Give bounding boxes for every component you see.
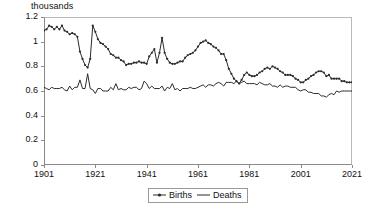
series-data-point xyxy=(117,57,119,59)
series-data-point xyxy=(140,62,142,64)
series-data-point xyxy=(251,75,253,77)
y-axis-tick-label: 1 xyxy=(0,36,38,46)
series-data-point xyxy=(58,28,60,30)
series-data-point xyxy=(189,53,191,55)
x-axis-tick-label: 1901 xyxy=(24,169,64,179)
series-data-point xyxy=(161,37,163,39)
series-data-point xyxy=(328,74,330,76)
series-data-point xyxy=(207,42,209,44)
series-data-point xyxy=(174,63,176,65)
series-data-point xyxy=(99,42,101,44)
series-data-point xyxy=(312,74,314,76)
x-axis-tick-label: 2021 xyxy=(332,169,371,179)
series-data-point xyxy=(87,66,89,68)
x-axis-tick-label: 2001 xyxy=(281,169,321,179)
y-axis-tick-label: 0.4 xyxy=(0,110,38,120)
series-data-point xyxy=(351,81,352,83)
series-data-point xyxy=(176,62,178,64)
series-data-point xyxy=(171,63,173,65)
series-data-point xyxy=(89,58,91,60)
series-data-point xyxy=(253,75,255,77)
series-data-point xyxy=(51,26,53,28)
series-data-point xyxy=(323,71,325,73)
series-data-point xyxy=(71,32,73,34)
series-data-point xyxy=(289,74,291,76)
x-axis-tick-mark xyxy=(352,165,353,168)
series-data-point xyxy=(197,46,199,48)
series-data-point xyxy=(56,26,58,28)
series-data-point xyxy=(192,52,194,54)
series-data-point xyxy=(69,33,71,35)
series-data-point xyxy=(228,68,230,70)
series-data-point xyxy=(325,75,327,77)
series-data-point xyxy=(264,68,266,70)
series-data-point xyxy=(279,70,281,72)
series-data-point xyxy=(84,64,86,66)
series-data-point xyxy=(79,50,81,52)
series-data-point xyxy=(164,52,166,54)
series-data-point xyxy=(284,74,286,76)
series-data-point xyxy=(112,54,114,56)
series-data-point xyxy=(187,54,189,56)
legend-label-deaths: Deaths xyxy=(213,190,242,200)
series-data-point xyxy=(341,80,343,82)
series-data-point xyxy=(61,25,63,27)
series-data-point xyxy=(133,62,135,64)
series-data-point xyxy=(310,75,312,77)
series-data-point xyxy=(220,53,222,55)
series-data-point xyxy=(215,47,217,49)
series-data-point xyxy=(148,55,150,57)
series-data-point xyxy=(287,74,289,76)
series-data-point xyxy=(315,71,317,73)
x-axis-tick-mark xyxy=(95,165,96,168)
series-data-point xyxy=(338,78,340,80)
series-data-point xyxy=(243,74,245,76)
x-axis-tick-mark xyxy=(249,165,250,168)
series-data-point xyxy=(269,68,271,70)
y-axis-tick-label: 0.2 xyxy=(0,134,38,144)
series-data-point xyxy=(271,65,273,67)
series-data-point xyxy=(248,74,250,76)
legend-item-deaths[interactable]: Deaths xyxy=(197,190,242,200)
series-data-point xyxy=(266,66,268,68)
y-axis-tick-label: 0 xyxy=(0,159,38,169)
series-data-point xyxy=(297,79,299,81)
deaths-line-icon xyxy=(197,191,210,199)
x-axis-tick-mark xyxy=(44,165,45,168)
series-data-point xyxy=(120,59,122,61)
series-data-point xyxy=(261,70,263,72)
y-axis-tick-label: 1.2 xyxy=(0,11,38,21)
series-data-point xyxy=(343,80,345,82)
x-axis-tick-mark xyxy=(198,165,199,168)
series-data-point xyxy=(302,81,304,83)
series-data-point xyxy=(125,64,127,66)
chart-legend: Births Deaths xyxy=(148,188,248,203)
series-data-point xyxy=(330,78,332,80)
series-data-point xyxy=(282,71,284,73)
series-deaths xyxy=(44,74,352,97)
series-data-point xyxy=(230,73,232,75)
series-births xyxy=(44,25,352,85)
series-data-point xyxy=(92,25,94,27)
series-data-point xyxy=(210,43,212,45)
series-data-point xyxy=(63,29,65,31)
series-data-point xyxy=(153,48,155,50)
plot-series-canvas xyxy=(44,17,352,165)
series-data-point xyxy=(102,43,104,45)
series-data-point xyxy=(45,28,47,30)
series-data-point xyxy=(225,59,227,61)
series-data-point xyxy=(233,78,235,80)
series-data-point xyxy=(166,58,168,60)
series-data-point xyxy=(199,42,201,44)
series-data-point xyxy=(336,78,338,80)
series-data-point xyxy=(300,81,302,83)
series-data-point xyxy=(205,39,207,41)
legend-item-births[interactable]: Births xyxy=(153,190,192,200)
series-data-point xyxy=(53,28,55,30)
series-data-point xyxy=(130,63,132,65)
series-data-point xyxy=(246,71,248,73)
series-data-point xyxy=(122,60,124,62)
series-data-point xyxy=(179,60,181,62)
series-data-point xyxy=(94,31,96,33)
x-axis-tick-mark xyxy=(301,165,302,168)
